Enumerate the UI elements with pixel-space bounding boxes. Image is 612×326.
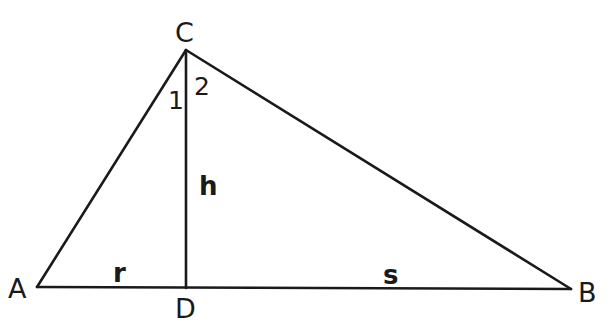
angle-label-1: 1 <box>168 86 184 115</box>
vertex-label-a: A <box>8 273 27 304</box>
vertex-label-b: B <box>578 277 597 308</box>
angle-label-2: 2 <box>194 72 210 101</box>
segment-label-r: r <box>113 258 126 288</box>
vertex-label-c: C <box>175 17 194 48</box>
triangle-diagram: C A B D 1 2 h r s <box>0 0 612 326</box>
segment-label-s: s <box>383 260 398 290</box>
segment-label-h: h <box>199 171 218 201</box>
side-cb <box>186 50 571 289</box>
side-ac <box>37 50 186 287</box>
vertex-label-d: D <box>175 293 196 324</box>
